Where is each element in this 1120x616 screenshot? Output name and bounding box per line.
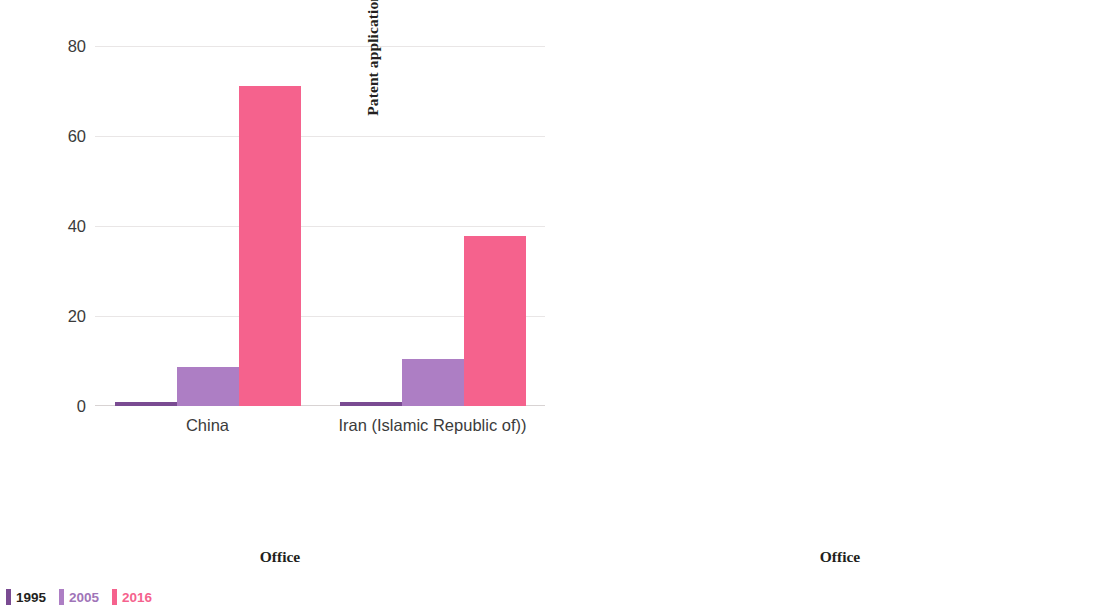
left-x-axis-title: Office <box>40 548 520 566</box>
left-legend: 1995 2005 2016 <box>6 589 152 605</box>
left-plot-area: 020406080ChinaIran (Islamic Republic of)… <box>95 28 545 406</box>
right-y-axis-title: Patent applications (1995 = 1) <box>364 0 388 226</box>
right-chart-panel: Patent applications (1995 = 1) 02468Indi… <box>560 0 1120 616</box>
legend-item-1995: 1995 <box>6 589 46 605</box>
bar-group <box>95 28 320 406</box>
y-axis-tick-label: 0 <box>77 397 86 416</box>
legend-item-2005: 2005 <box>59 589 99 605</box>
right-x-axis-title: Office <box>600 548 1080 566</box>
legend-swatch-2016-icon <box>112 589 117 605</box>
bar-group <box>320 28 545 406</box>
bar-1995 <box>340 402 402 407</box>
x-axis-tick-label: China <box>186 416 229 435</box>
legend-label-2005: 2005 <box>69 590 99 605</box>
bar-2016 <box>239 86 301 406</box>
legend-swatch-1995-icon <box>6 589 11 605</box>
legend-item-2016: 2016 <box>112 589 152 605</box>
left-chart-panel: Patent applications (1995 = 1) 020406080… <box>0 0 560 616</box>
bar-1995 <box>115 402 177 407</box>
y-axis-tick-label: 40 <box>68 217 86 236</box>
bar-2005 <box>402 359 464 406</box>
y-axis-tick-label: 60 <box>68 127 86 146</box>
legend-swatch-2005-icon <box>59 589 64 605</box>
legend-label-2016: 2016 <box>122 590 152 605</box>
legend-label-1995: 1995 <box>16 590 46 605</box>
bar-2005 <box>177 367 239 406</box>
bar-2016 <box>464 236 526 406</box>
x-axis-tick-label: Iran (Islamic Republic of)) <box>339 416 527 435</box>
y-axis-tick-label: 80 <box>68 37 86 56</box>
y-axis-tick-label: 20 <box>68 307 86 326</box>
